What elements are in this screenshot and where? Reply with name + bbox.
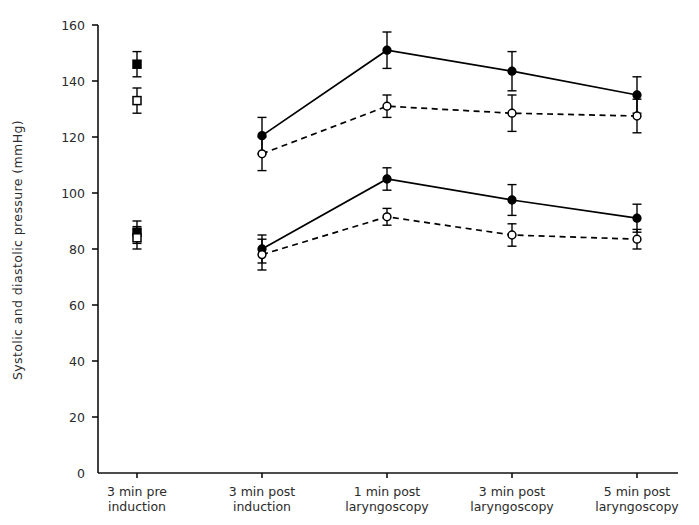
data-point-0-3 [508, 67, 516, 75]
y-tick-label: 0 [77, 466, 85, 481]
data-point-3-4 [633, 235, 641, 243]
category-label-4-line0: 5 min post [604, 484, 671, 499]
data-point-1-0 [133, 97, 141, 105]
category-label-1-line1: induction [233, 499, 291, 514]
data-point-2-3 [508, 196, 516, 204]
category-label-0-line0: 3 min pre [107, 484, 167, 499]
y-tick-label: 80 [69, 242, 85, 257]
category-label-2-line0: 1 min post [354, 484, 421, 499]
y-tick-label: 20 [69, 410, 85, 425]
data-point-0-4 [633, 91, 641, 99]
category-label-1-line0: 3 min post [229, 484, 296, 499]
y-tick-label: 160 [61, 18, 85, 33]
category-label-0-line1: induction [108, 499, 166, 514]
chart-figure: 020406080100120140160 3 min preinduction… [0, 0, 699, 525]
y-tick-label: 40 [69, 354, 85, 369]
data-point-1-3 [508, 109, 516, 117]
y-tick-label: 60 [69, 298, 85, 313]
data-point-0-2 [383, 46, 391, 54]
category-label-3-line0: 3 min post [479, 484, 546, 499]
category-label-2-line1: laryngoscopy [345, 499, 429, 514]
data-point-2-4 [633, 214, 641, 222]
line-chart: 020406080100120140160 3 min preinduction… [0, 0, 699, 525]
data-point-1-2 [383, 102, 391, 110]
data-point-2-2 [383, 175, 391, 183]
category-label-3-line1: laryngoscopy [470, 499, 554, 514]
data-point-3-1 [258, 251, 266, 259]
y-tick-label: 140 [61, 74, 85, 89]
data-point-1-4 [633, 112, 641, 120]
data-point-3-2 [383, 213, 391, 221]
y-axis-title-group: Systolic and diastolic pressure (mmHg) [10, 120, 25, 380]
category-label-4-line1: laryngoscopy [595, 499, 679, 514]
chart-background [0, 0, 699, 525]
data-point-3-0 [133, 234, 141, 242]
data-point-1-1 [258, 150, 266, 158]
data-point-3-3 [508, 231, 516, 239]
y-tick-label: 120 [61, 130, 85, 145]
data-point-0-0 [133, 60, 141, 68]
y-tick-label: 100 [61, 186, 85, 201]
y-axis-title: Systolic and diastolic pressure (mmHg) [10, 120, 25, 380]
